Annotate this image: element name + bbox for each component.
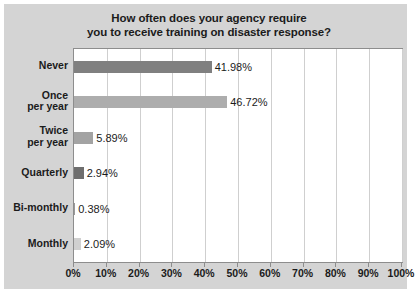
plot-area: 41.98%46.72%5.89%2.94%0.38%2.09% [73,48,403,263]
category-label: Onceper year [8,90,68,113]
bar-row: 0.38% [74,191,402,227]
category-label-line: Monthly [8,238,68,250]
bar-value-label: 46.72% [227,96,267,108]
category-label: Monthly [8,238,68,250]
bar [74,61,212,73]
bar-row: 46.72% [74,85,402,121]
bar [74,96,227,108]
bar-value-label: 5.89% [93,132,127,144]
bar [74,167,84,179]
category-label: Never [8,60,68,72]
category-label-line: Bi-monthly [8,202,68,214]
category-label: Quarterly [8,167,68,179]
bar-value-label: 41.98% [212,61,252,73]
gridline [402,49,403,262]
bar-row: 5.89% [74,120,402,156]
bar-row: 2.94% [74,156,402,192]
category-label: Bi-monthly [8,202,68,214]
bar-value-label: 2.94% [84,167,118,179]
bar-row: 2.09% [74,227,402,263]
bar [74,238,81,250]
chart-figure: How often does your agency require you t… [4,4,407,289]
category-label-line: per year [8,101,68,113]
bar-row: 41.98% [74,49,402,85]
x-tick-label: 100% [381,267,419,279]
chart-title: How often does your agency require you t… [54,11,364,39]
bar-value-label: 0.38% [75,203,109,215]
chart-title-line-2: you to receive training on disaster resp… [54,25,364,39]
category-label-line: Never [8,60,68,72]
category-label-line: per year [8,137,68,149]
chart-title-line-1: How often does your agency require [54,11,364,25]
bar-value-label: 2.09% [81,238,115,250]
category-label: Twiceper year [8,125,68,148]
category-label-line: Quarterly [8,167,68,179]
bar [74,132,93,144]
